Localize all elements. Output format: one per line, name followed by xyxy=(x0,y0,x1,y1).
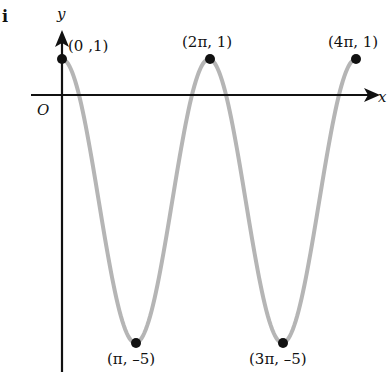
point-pi-neg5 xyxy=(131,338,141,348)
cosine-curve xyxy=(62,59,356,343)
point-label-2: (2π, 1) xyxy=(182,33,232,51)
point-2pi-1 xyxy=(205,54,215,64)
graph: i x y O (0 ,1) (π, –5) (2π, 1) (3π, –5) … xyxy=(0,0,389,372)
y-axis-label: y xyxy=(56,5,66,23)
point-3pi-neg5 xyxy=(278,338,288,348)
point-label-0: (0 ,1) xyxy=(68,37,108,55)
point-4pi-1 xyxy=(351,54,361,64)
x-axis-label: x xyxy=(378,88,387,106)
part-label: i xyxy=(2,7,8,26)
point-label-3: (3π, –5) xyxy=(249,350,307,368)
point-label-1: (π, –5) xyxy=(107,350,155,368)
origin-label: O xyxy=(37,101,49,119)
point-label-4: (4π, 1) xyxy=(328,33,378,51)
point-0-1 xyxy=(57,54,67,64)
